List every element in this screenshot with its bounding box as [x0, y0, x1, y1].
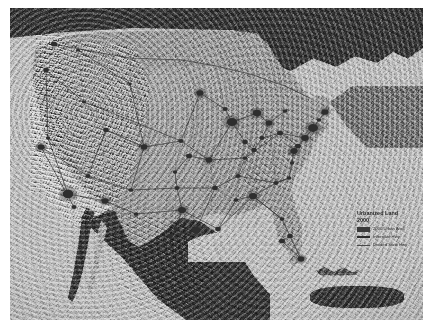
map-canvas[interactable]: Urbanized Land 2000 2000 Urban Area Inte… [10, 8, 423, 320]
screenshot-root: Urbanized Land 2000 2000 Urban Area Inte… [0, 0, 423, 328]
edge-vignette [10, 8, 423, 320]
